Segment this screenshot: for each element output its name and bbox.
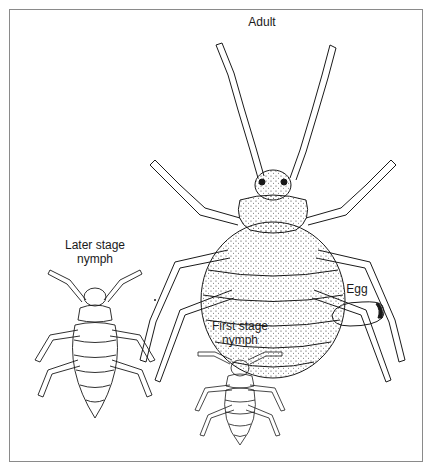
bedbug-illustrations — [0, 0, 434, 470]
stray-dot — [154, 299, 156, 301]
later-stage-nymph-icon — [35, 270, 155, 418]
adult-bedbug-icon — [140, 43, 405, 382]
